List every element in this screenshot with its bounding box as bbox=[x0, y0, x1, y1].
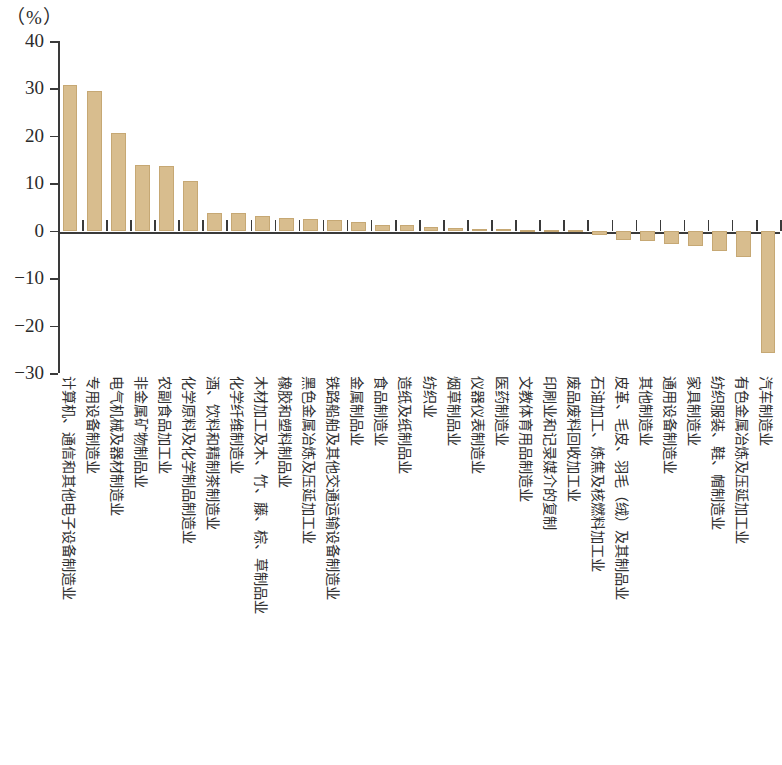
x-category-label: 橡胶和塑料制品业 bbox=[278, 376, 292, 488]
unit-label: （%） bbox=[6, 2, 63, 29]
y-tick-label: 0 bbox=[35, 220, 45, 242]
x-category-label: 有色金属冶炼及压延加工业 bbox=[735, 376, 749, 544]
bar bbox=[712, 231, 727, 251]
bar bbox=[616, 231, 631, 240]
x-tick-mark bbox=[756, 220, 758, 231]
x-category-label: 家具制造业 bbox=[687, 376, 701, 446]
x-tick-mark bbox=[323, 220, 325, 231]
x-tick-mark bbox=[539, 220, 541, 231]
bar bbox=[592, 231, 607, 235]
x-tick-mark bbox=[515, 220, 517, 231]
bar bbox=[231, 213, 246, 231]
y-tick-label: 40 bbox=[25, 30, 44, 52]
bar bbox=[424, 227, 439, 230]
y-tick-label: −20 bbox=[14, 315, 44, 337]
y-tick-label: 20 bbox=[25, 125, 44, 147]
x-category-label: 废品废料回收加工业 bbox=[567, 376, 581, 502]
x-category-label: 金属制品业 bbox=[350, 376, 364, 446]
x-category-label: 文教体育用品制造业 bbox=[519, 376, 533, 502]
x-tick-mark bbox=[371, 220, 373, 231]
x-category-label: 计算机、通信和其他电子设备制造业 bbox=[61, 376, 75, 600]
x-tick-mark bbox=[419, 220, 421, 231]
x-tick-mark bbox=[275, 220, 277, 231]
x-tick-mark bbox=[130, 220, 132, 231]
bar bbox=[568, 230, 583, 232]
x-category-label: 非金属矿物制品业 bbox=[134, 376, 148, 488]
x-category-label: 印刷业和记录媒介的复制 bbox=[543, 376, 557, 530]
x-category-label: 医药制造业 bbox=[495, 376, 509, 446]
x-tick-mark bbox=[347, 220, 349, 231]
x-category-label: 汽车制造业 bbox=[759, 376, 773, 446]
bar bbox=[496, 229, 511, 231]
x-category-label: 纺织业 bbox=[422, 376, 436, 418]
x-category-label: 木材加工及木、竹、藤、棕、草制品业 bbox=[254, 376, 268, 614]
y-tick-label: 30 bbox=[25, 77, 44, 99]
y-axis-line bbox=[58, 41, 60, 373]
bar bbox=[664, 231, 679, 245]
plot-area bbox=[58, 41, 780, 373]
bar bbox=[159, 166, 174, 231]
x-tick-mark bbox=[178, 220, 180, 231]
x-tick-mark bbox=[299, 220, 301, 231]
y-tick-mark bbox=[50, 326, 58, 328]
bar bbox=[520, 230, 535, 232]
x-category-label: 农副食品加工业 bbox=[158, 376, 172, 474]
y-tick-label: −30 bbox=[14, 362, 44, 384]
bar bbox=[448, 228, 463, 230]
bar bbox=[375, 225, 390, 230]
y-tick-mark bbox=[50, 183, 58, 185]
bar bbox=[111, 133, 126, 231]
bar bbox=[279, 218, 294, 231]
x-category-label: 化学原料及化学制品制造业 bbox=[182, 376, 196, 544]
x-tick-mark bbox=[395, 220, 397, 231]
bar bbox=[255, 216, 270, 230]
x-tick-mark bbox=[491, 220, 493, 231]
x-category-label: 化学纤维制造业 bbox=[230, 376, 244, 474]
y-tick-mark bbox=[50, 278, 58, 280]
x-tick-mark bbox=[563, 220, 565, 231]
x-tick-mark bbox=[660, 220, 662, 231]
x-category-label: 酒、饮料和精制茶制造业 bbox=[206, 376, 220, 530]
x-tick-mark bbox=[587, 220, 589, 231]
x-category-label: 石油加工、炼焦及核燃料加工业 bbox=[591, 376, 605, 572]
x-category-label: 食品制造业 bbox=[374, 376, 388, 446]
x-tick-mark bbox=[636, 220, 638, 231]
x-category-label: 黑色金属冶炼及压延加工业 bbox=[302, 376, 316, 544]
x-tick-mark bbox=[443, 220, 445, 231]
bar bbox=[207, 213, 222, 231]
bar bbox=[183, 181, 198, 230]
x-tick-mark bbox=[612, 220, 614, 231]
bar bbox=[761, 231, 776, 353]
x-category-label: 专用设备制造业 bbox=[85, 376, 99, 474]
bar bbox=[688, 231, 703, 247]
x-tick-mark bbox=[154, 220, 156, 231]
bar bbox=[87, 91, 102, 231]
bar-chart: （%） 403020100−10−20−30 计算机、通信和其他电子设备制造业专… bbox=[0, 0, 782, 765]
bar bbox=[327, 220, 342, 231]
x-category-label: 铁路船舶及其他交通运输设备制造业 bbox=[326, 376, 340, 600]
bar bbox=[63, 85, 78, 231]
bar bbox=[472, 229, 487, 231]
y-tick-mark bbox=[50, 373, 58, 375]
y-tick-label: −10 bbox=[14, 267, 44, 289]
x-tick-mark bbox=[467, 220, 469, 231]
bar bbox=[640, 231, 655, 241]
x-tick-mark bbox=[780, 220, 782, 231]
bar bbox=[351, 222, 366, 231]
x-category-label: 通用设备制造业 bbox=[663, 376, 677, 474]
x-category-label: 烟草制品业 bbox=[446, 376, 460, 446]
bar bbox=[544, 230, 559, 232]
x-tick-mark bbox=[106, 220, 108, 231]
x-tick-mark bbox=[226, 220, 228, 231]
y-axis-tick-labels: 403020100−10−20−30 bbox=[0, 41, 56, 373]
x-category-label: 纺织服装、鞋、帽制造业 bbox=[711, 376, 725, 530]
x-axis-category-labels: 计算机、通信和其他电子设备制造业专用设备制造业电气机械及器材制造业非金属矿物制品… bbox=[58, 376, 780, 765]
x-category-label: 造纸及纸制品业 bbox=[398, 376, 412, 474]
x-category-label: 其他制造业 bbox=[639, 376, 653, 446]
bar bbox=[303, 219, 318, 230]
x-tick-mark bbox=[251, 220, 253, 231]
x-tick-mark bbox=[82, 220, 84, 231]
x-category-label: 电气机械及器材制造业 bbox=[109, 376, 123, 516]
x-tick-mark bbox=[202, 220, 204, 231]
y-tick-label: 10 bbox=[25, 172, 44, 194]
